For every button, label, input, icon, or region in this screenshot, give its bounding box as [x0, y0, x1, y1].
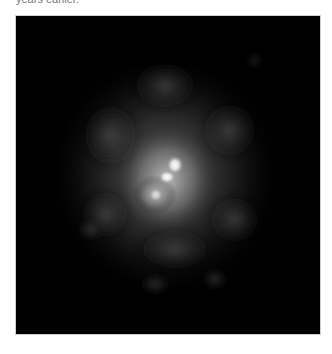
- caption-text: years earlier.: [16, 0, 79, 6]
- astronomical-image: [15, 15, 321, 335]
- nebula-image: [16, 16, 320, 334]
